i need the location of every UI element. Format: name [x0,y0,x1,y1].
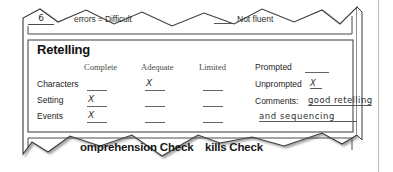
column-header-adequate: Adequate [141,62,174,72]
unprompted-value[interactable]: X [310,78,322,89]
prompted-blank[interactable] [305,62,329,73]
scrap-content-layer: 6 errors = Difficult Not fluent Retellin… [22,4,366,168]
row-label-characters: Characters [37,79,79,89]
unprompted-label: Unprompted [255,79,302,89]
cell-mark: X [88,110,94,120]
cell-mark: X [146,78,152,88]
row-label-setting: Setting [37,95,63,105]
cell-setting-complete[interactable]: X [87,95,107,107]
torn-paper-scrap: 6 errors = Difficult Not fluent Retellin… [22,4,366,168]
cell-characters-adequate[interactable]: X [145,79,165,91]
row-label-events: Events [37,111,63,121]
skills-check-heading: kills Check [205,141,263,153]
page-edge-rule [378,0,379,172]
cell-events-complete[interactable]: X [87,111,107,123]
column-header-limited: Limited [199,62,226,72]
not-fluent-label: Not fluent [237,14,273,24]
comments-line-2[interactable]: and sequencing [259,111,357,122]
prompted-label: Prompted [255,62,292,72]
cell-events-limited[interactable] [203,111,223,123]
not-fluent-checkbox-blank[interactable] [214,14,232,24]
cell-mark: X [88,94,94,104]
cell-setting-adequate[interactable] [145,95,165,107]
cell-events-adequate[interactable] [145,111,165,123]
comments-line-1[interactable]: good retelling [308,95,372,106]
document-page: 6 errors = Difficult Not fluent Retellin… [0,0,393,172]
cell-setting-limited[interactable] [203,95,223,107]
comments-label: Comments: [255,96,298,106]
retelling-title: Retelling [37,42,90,57]
fluency-row: 6 errors = Difficult Not fluent [22,13,352,29]
cell-characters-complete[interactable] [87,79,107,91]
bottom-sections-strip: omprehension Check kills Check [22,137,366,165]
column-header-complete: Complete [84,62,117,72]
retelling-panel: Retelling Complete Adequate Limited Char… [27,40,353,132]
error-score-value[interactable]: 6 [28,13,54,25]
errors-difficult-label: errors = Difficult [74,14,132,24]
comprehension-check-heading: omprehension Check [80,141,193,153]
cell-characters-limited[interactable] [203,79,223,91]
